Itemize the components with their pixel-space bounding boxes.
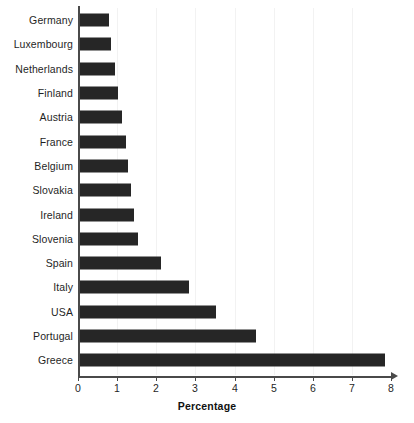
bar-row: Slovenia bbox=[0, 227, 414, 251]
category-label: Netherlands bbox=[15, 63, 73, 74]
x-tick bbox=[313, 376, 314, 381]
x-tick-label: 8 bbox=[378, 382, 404, 394]
x-axis-title: Percentage bbox=[0, 400, 414, 412]
bar-row: Italy bbox=[0, 275, 414, 299]
category-label: Germany bbox=[29, 15, 73, 26]
bar bbox=[79, 14, 109, 27]
bar-row: France bbox=[0, 130, 414, 154]
x-tick bbox=[352, 376, 353, 381]
x-tick bbox=[391, 376, 392, 381]
bar-row: Slovakia bbox=[0, 178, 414, 202]
bar bbox=[79, 281, 189, 294]
bar-row: Germany bbox=[0, 8, 414, 32]
bar bbox=[79, 135, 126, 148]
bar bbox=[79, 159, 128, 172]
x-tick bbox=[156, 376, 157, 381]
bar-row: Luxembourg bbox=[0, 32, 414, 56]
bar bbox=[79, 62, 115, 75]
bar bbox=[79, 330, 256, 343]
y-axis-line bbox=[78, 6, 80, 377]
x-tick bbox=[78, 376, 79, 381]
x-tick-label: 7 bbox=[339, 382, 365, 394]
bar bbox=[79, 87, 118, 100]
bar-chart: Germany Luxembourg Netherlands Finland A… bbox=[0, 0, 414, 423]
bar-row: Finland bbox=[0, 81, 414, 105]
x-tick bbox=[195, 376, 196, 381]
x-tick bbox=[274, 376, 275, 381]
category-label: Spain bbox=[46, 258, 73, 269]
bar bbox=[79, 232, 138, 245]
category-label: Finland bbox=[38, 88, 73, 99]
bar bbox=[79, 184, 131, 197]
x-axis-arrow-icon bbox=[391, 372, 398, 380]
bar-row: Portugal bbox=[0, 324, 414, 348]
category-label: Ireland bbox=[40, 209, 73, 220]
bar-row: USA bbox=[0, 300, 414, 324]
x-tick-label: 3 bbox=[182, 382, 208, 394]
x-tick bbox=[235, 376, 236, 381]
bar-row: Netherlands bbox=[0, 57, 414, 81]
bar-row: Ireland bbox=[0, 202, 414, 226]
bar-row: Spain bbox=[0, 251, 414, 275]
x-tick-label: 6 bbox=[300, 382, 326, 394]
bar-row: Austria bbox=[0, 105, 414, 129]
category-label: Slovenia bbox=[32, 233, 73, 244]
bar bbox=[79, 208, 134, 221]
category-label: Luxembourg bbox=[14, 39, 73, 50]
category-label: Austria bbox=[40, 112, 73, 123]
category-label: Belgium bbox=[34, 160, 73, 171]
category-label: Slovakia bbox=[33, 185, 74, 196]
bar-row: Greece bbox=[0, 348, 414, 372]
bar bbox=[79, 111, 122, 124]
bar bbox=[79, 354, 385, 367]
bar bbox=[79, 305, 216, 318]
x-tick-label: 0 bbox=[65, 382, 91, 394]
x-tick-label: 2 bbox=[143, 382, 169, 394]
bar-row: Belgium bbox=[0, 154, 414, 178]
bar bbox=[79, 38, 111, 51]
x-tick-label: 1 bbox=[104, 382, 130, 394]
x-tick-label: 4 bbox=[222, 382, 248, 394]
category-label: Portugal bbox=[33, 331, 73, 342]
category-label: Greece bbox=[38, 355, 73, 366]
category-label: Italy bbox=[53, 282, 73, 293]
category-label: USA bbox=[51, 306, 73, 317]
x-tick bbox=[117, 376, 118, 381]
category-label: France bbox=[40, 136, 73, 147]
x-tick-label: 5 bbox=[261, 382, 287, 394]
bar bbox=[79, 257, 161, 270]
